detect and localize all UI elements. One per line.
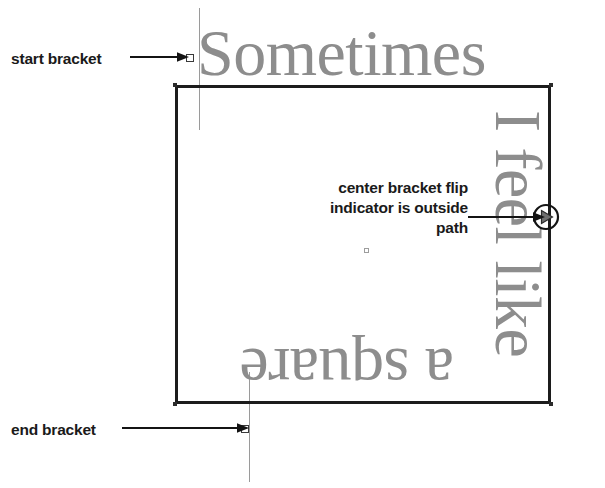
canvas-stage: Sometimes I feel like a square start bra… bbox=[0, 0, 605, 488]
annotation-leader-start-bracket bbox=[130, 51, 190, 63]
path-anchor-top-right[interactable] bbox=[549, 83, 553, 87]
annotation-leader-center-bracket bbox=[468, 211, 546, 223]
path-anchor-bottom-left[interactable] bbox=[173, 402, 177, 406]
annotation-center-line-1: center bracket flip bbox=[300, 178, 468, 198]
path-text-bottom[interactable]: a square bbox=[240, 338, 454, 404]
annotation-label-start-bracket: start bracket bbox=[11, 50, 101, 68]
path-text-right[interactable]: I feel like bbox=[485, 110, 551, 357]
annotation-label-end-bracket: end bracket bbox=[11, 421, 96, 439]
path-text-top[interactable]: Sometimes bbox=[197, 20, 486, 86]
path-anchor-bottom-right[interactable] bbox=[549, 402, 553, 406]
annotation-label-center-bracket: center bracket flip indicator is outside… bbox=[300, 178, 468, 238]
path-anchor-top-left[interactable] bbox=[173, 83, 177, 87]
annotation-center-line-2: indicator is outside path bbox=[300, 198, 468, 238]
center-point-marker[interactable] bbox=[364, 248, 369, 253]
annotation-leader-end-bracket bbox=[122, 422, 250, 434]
